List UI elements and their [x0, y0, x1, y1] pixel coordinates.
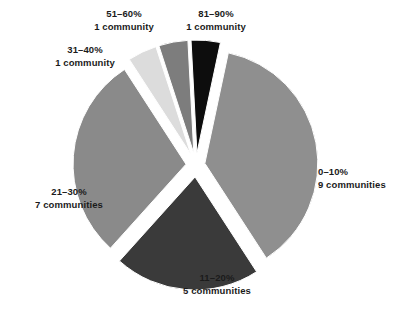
pie-chart-figure: 0–10% 9 communities 11–20% 5 communities… [0, 0, 404, 310]
pie-label-51-60: 51–60% 1 community [78, 8, 170, 33]
pie-label-range: 0–10% [318, 166, 386, 179]
pie-label-count: 1 community [78, 21, 170, 34]
pie-label-31-40: 31–40% 1 community [24, 44, 146, 69]
pie-label-11-20: 11–20% 5 communities [152, 272, 282, 297]
pie-label-range: 11–20% [152, 272, 282, 285]
pie-label-0-10: 0–10% 9 communities [318, 166, 386, 191]
pie-label-range: 21–30% [8, 186, 130, 199]
pie-label-count: 9 communities [318, 179, 386, 192]
pie-slice-group [73, 40, 318, 290]
pie-label-count: 1 community [170, 21, 262, 34]
pie-label-count: 7 communities [8, 199, 130, 212]
pie-label-81-90: 81–90% 1 community [170, 8, 262, 33]
pie-label-range: 51–60% [78, 8, 170, 21]
pie-label-range: 81–90% [170, 8, 262, 21]
pie-label-21-30: 21–30% 7 communities [8, 186, 130, 211]
pie-label-range: 31–40% [24, 44, 146, 57]
pie-label-count: 5 communities [152, 285, 282, 298]
pie-label-count: 1 community [24, 57, 146, 70]
